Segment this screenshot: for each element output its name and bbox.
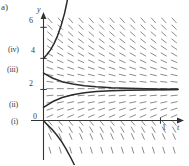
slope-mark: [109, 46, 115, 50]
slope-mark: [110, 127, 114, 133]
slope-mark: [78, 115, 84, 118]
slope-mark: [80, 133, 83, 139]
slope-mark: [109, 32, 114, 37]
slope-mark: [130, 18, 135, 23]
slope-mark: [89, 39, 94, 43]
slope-mark: [160, 102, 167, 103]
slope-mark: [57, 95, 64, 96]
slope-mark: [68, 39, 73, 43]
slope-mark: [140, 53, 146, 56]
slope-mark: [78, 74, 85, 76]
slope-mark: [89, 18, 94, 23]
slope-mark: [150, 67, 157, 69]
slope-mark: [47, 60, 53, 63]
slope-mark: [140, 115, 146, 118]
solution-curve-i: [44, 121, 79, 166]
slope-mark: [57, 108, 64, 110]
slope-mark: [67, 60, 73, 63]
slope-mark: [88, 53, 94, 56]
slope-mark: [130, 25, 135, 30]
y-axis-label: y: [37, 6, 40, 14]
curve-label-iv: (iv): [8, 46, 19, 54]
slope-mark: [151, 18, 156, 23]
slope-mark: [130, 60, 136, 63]
slope-mark: [172, 32, 177, 37]
slope-mark: [171, 74, 178, 76]
slope-mark: [160, 95, 167, 96]
slope-mark: [49, 147, 51, 154]
slope-mark: [160, 108, 167, 110]
slope-mark: [140, 60, 146, 63]
slope-mark: [90, 127, 94, 133]
slope-mark: [109, 115, 115, 118]
slope-mark: [171, 53, 177, 56]
slope-mark: [171, 60, 177, 63]
slope-mark: [161, 25, 166, 30]
slope-mark: [140, 102, 147, 103]
slope-mark: [141, 25, 146, 30]
slope-mark: [69, 127, 73, 133]
slope-mark: [140, 108, 147, 110]
slope-mark: [90, 147, 92, 154]
slope-mark: [130, 32, 135, 37]
slope-mark: [173, 133, 176, 139]
slope-mark: [130, 115, 136, 118]
slope-mark: [78, 108, 85, 110]
slope-mark: [109, 81, 116, 82]
slope-mark: [119, 115, 125, 118]
slope-mark: [78, 46, 84, 50]
slope-mark: [68, 25, 73, 30]
slope-mark: [171, 95, 178, 96]
slope-mark: [129, 95, 136, 96]
slope-mark: [79, 25, 84, 30]
slope-mark: [68, 32, 73, 37]
slope-mark: [109, 108, 116, 110]
slope-mark: [150, 108, 157, 110]
slope-mark: [172, 18, 177, 23]
slope-mark: [47, 67, 54, 69]
slope-mark: [88, 95, 95, 96]
slope-mark: [67, 67, 74, 69]
slope-mark: [98, 102, 105, 103]
slope-mark: [57, 67, 64, 69]
slope-mark: [67, 74, 74, 76]
slope-mark: [161, 18, 166, 23]
slope-mark: [88, 115, 94, 118]
slope-mark: [160, 67, 167, 69]
slope-mark: [109, 95, 116, 96]
axes-group: [31, 12, 184, 160]
slope-mark: [119, 81, 126, 82]
slope-mark: [119, 53, 125, 56]
slope-mark: [98, 67, 105, 69]
slope-mark: [130, 53, 136, 56]
slope-mark: [99, 32, 104, 37]
slope-mark: [129, 81, 136, 82]
slope-mark: [171, 102, 178, 103]
curve-label-ii: (ii): [9, 101, 18, 109]
slope-mark: [120, 39, 125, 43]
slope-mark: [150, 115, 156, 118]
slope-mark: [98, 74, 105, 76]
slope-mark: [120, 32, 125, 37]
slope-mark: [150, 81, 157, 82]
slope-mark: [142, 133, 145, 139]
slope-mark: [47, 32, 52, 37]
curve-label-i: (i): [11, 118, 18, 126]
slope-mark: [100, 127, 104, 133]
slope-mark: [121, 127, 125, 133]
slope-mark: [132, 147, 134, 154]
slope-mark: [69, 133, 72, 139]
slope-mark: [78, 60, 84, 63]
slope-mark: [151, 32, 156, 37]
solution-curve-iv: [44, 0, 70, 58]
slope-mark: [152, 147, 154, 154]
slope-mark: [57, 74, 64, 76]
slope-mark: [150, 74, 157, 76]
slope-mark: [78, 53, 84, 56]
slope-mark: [119, 46, 125, 50]
slope-mark: [151, 25, 156, 30]
slope-mark: [171, 81, 178, 82]
slope-mark: [121, 133, 124, 139]
slope-mark: [172, 127, 176, 133]
slope-mark: [78, 102, 85, 103]
